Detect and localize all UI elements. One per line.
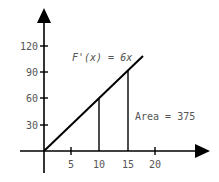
x-tick-20: 20 (149, 159, 161, 170)
y-tick-90: 90 (26, 67, 38, 78)
x-axis-arrow-icon (195, 144, 210, 158)
x-tick-15: 15 (122, 159, 134, 170)
y-tick-120: 120 (20, 41, 38, 52)
y-tick-30: 30 (26, 120, 38, 131)
y-axis-arrow-icon (37, 8, 51, 23)
x-tick-10: 10 (93, 159, 105, 170)
y-tick-60: 60 (26, 93, 38, 104)
area-label: Area = 375 (135, 111, 195, 122)
x-tick-5: 5 (68, 159, 74, 170)
chart: 120 90 60 30 5 10 15 20 F'(x) = 6x Area … (0, 0, 219, 182)
function-label: F'(x) = 6x (72, 52, 132, 63)
